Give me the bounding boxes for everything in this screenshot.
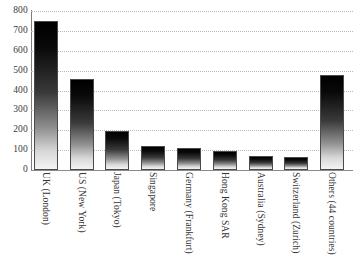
y-tick-label: 800 bbox=[13, 6, 28, 16]
y-tick-label: 400 bbox=[13, 86, 28, 96]
x-tick-label: UK (London) bbox=[40, 172, 50, 225]
y-tick-label: 600 bbox=[13, 46, 28, 56]
y-tick-label: 500 bbox=[13, 66, 28, 76]
bars-layer bbox=[31, 11, 353, 170]
y-tick-label: 100 bbox=[13, 145, 28, 155]
x-tick-label: Singapore bbox=[148, 172, 158, 211]
bar bbox=[177, 148, 201, 170]
bar bbox=[320, 75, 344, 170]
x-tick-label: Australia (Sydney) bbox=[255, 172, 265, 246]
bar bbox=[213, 151, 237, 170]
plot-area bbox=[31, 11, 353, 170]
y-tick-label: 700 bbox=[13, 26, 28, 36]
bar bbox=[284, 157, 308, 171]
bar bbox=[249, 156, 273, 170]
y-tick-label: 0 bbox=[23, 165, 28, 175]
bar bbox=[34, 21, 58, 170]
x-tick-label: Hong Kong SAR bbox=[219, 172, 229, 239]
y-tick-label: 300 bbox=[13, 106, 28, 116]
bar bbox=[141, 146, 165, 170]
x-tick-label: Switzerland (Zurich) bbox=[291, 172, 301, 253]
x-tick-label: Others (44 countries) bbox=[327, 172, 337, 255]
bar-chart: 0100200300400500600700800 UK (London)US … bbox=[0, 0, 353, 274]
x-axis-baseline bbox=[31, 170, 353, 171]
bar bbox=[105, 131, 129, 170]
x-axis-tick-labels: UK (London)US (New York)Japan (Tokyo)Sin… bbox=[31, 172, 353, 274]
y-tick-label: 200 bbox=[13, 126, 28, 136]
x-tick-label: Germany (Frankfurt) bbox=[184, 172, 194, 254]
bar bbox=[70, 79, 94, 170]
x-tick-label: US (New York) bbox=[76, 172, 86, 233]
y-axis-tick-labels: 0100200300400500600700800 bbox=[0, 0, 30, 180]
x-tick-label: Japan (Tokyo) bbox=[112, 172, 122, 228]
